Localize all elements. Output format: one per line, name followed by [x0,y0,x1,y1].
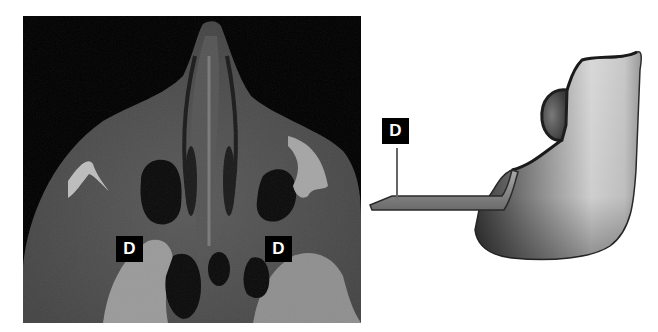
ct-label-d-left: D [116,236,143,262]
ct-scan-graphic [23,16,361,323]
ct-scan-image: D D [23,16,361,323]
jaw-illustration: D [362,0,658,332]
ct-label-d-right: D [265,236,292,262]
illustration-label-d: D [382,118,409,144]
mandible-graphic [362,0,658,332]
